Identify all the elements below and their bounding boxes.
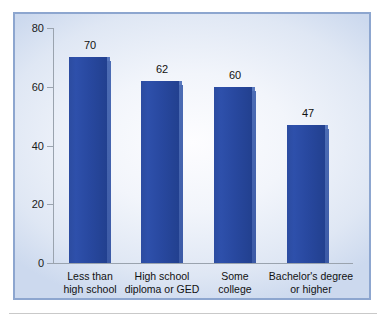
y-axis-tick-label: 0 — [38, 257, 44, 269]
y-axis-tick-label: 20 — [32, 198, 44, 210]
x-axis-label-line: Bachelor's degree — [259, 270, 363, 283]
x-axis-label-line: or higher — [259, 283, 363, 296]
bar-front-face — [287, 125, 325, 263]
y-axis-tick-label: 40 — [32, 140, 44, 152]
chart-panel: 0 20 40 60 80 70 62 — [13, 12, 371, 300]
bar-value-label: 62 — [141, 63, 183, 75]
bar-side-face — [325, 129, 329, 263]
bar-value-label: 60 — [214, 69, 256, 81]
bottom-divider — [9, 313, 377, 314]
bar-value-label: 47 — [287, 107, 329, 119]
bar-side-face — [252, 91, 256, 263]
x-axis-line — [53, 263, 353, 264]
bar-side-face — [107, 61, 111, 263]
y-axis-line — [53, 28, 54, 264]
y-axis-tick-label: 60 — [32, 81, 44, 93]
y-axis-tick-label: 80 — [32, 22, 44, 34]
bar-front-face — [141, 81, 179, 263]
plot-area: 0 20 40 60 80 70 62 — [53, 28, 353, 278]
x-axis-label-3: Bachelor's degree or higher — [259, 270, 363, 295]
bar-front-face — [214, 87, 252, 263]
bar-value-label: 70 — [69, 39, 111, 51]
bar-front-face — [69, 57, 107, 263]
bar-side-face — [179, 85, 183, 263]
